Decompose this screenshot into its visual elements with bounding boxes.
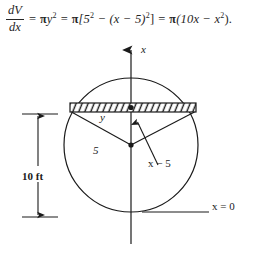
paren-x-minus-five: (x − 5)	[110, 12, 146, 26]
term-bracket-expression: π[52−(x − 5)2]	[72, 13, 155, 26]
pi-symbol-2: π	[72, 12, 79, 26]
minus-sign-1: −	[94, 12, 109, 26]
equals-sign-1: =	[25, 13, 40, 26]
tank-cross-section-figure: x y 5 x − 5 x = 0 10 ft	[0, 36, 265, 254]
axis-label-x: x	[141, 44, 146, 55]
paren-ten-x-minus-x: (10x − x	[176, 12, 220, 26]
equals-sign-2: =	[57, 13, 72, 26]
label-radius-five: 5	[93, 145, 99, 156]
figure-svg	[0, 36, 265, 254]
strip-midpoint-dot	[128, 105, 133, 110]
bracket-open-five: [5	[79, 12, 91, 26]
derivative-fraction: dV dx	[6, 4, 24, 33]
paren-close-period: ).	[224, 12, 232, 26]
pi-symbol-1: π	[40, 12, 47, 26]
fraction-denominator: dx	[7, 20, 23, 34]
formula-line: dV dx = πy2 = π[52−(x − 5)2] = π(10x − x…	[6, 2, 262, 36]
term-pi-y-squared: πy2	[40, 13, 57, 26]
term-expanded-expression: π(10x − x2).	[169, 13, 232, 26]
label-strip-width-y: y	[100, 112, 105, 123]
label-ten-feet: 10 ft	[22, 171, 43, 182]
fraction-numerator: dV	[6, 4, 24, 18]
equals-sign-3: =	[154, 13, 169, 26]
circle-center-dot	[128, 142, 133, 147]
label-x-equals-zero: x = 0	[212, 201, 235, 212]
label-x-minus-five: x − 5	[148, 158, 171, 169]
